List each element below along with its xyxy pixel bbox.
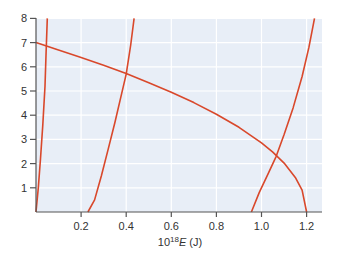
y-tick-label: 4 — [21, 109, 27, 121]
y-tick-label: 3 — [21, 133, 27, 145]
x-tick-label: 0.2 — [73, 220, 88, 232]
chart: 0.20.40.60.81.01.2 12345678 1018E (J) — [0, 0, 341, 258]
x-tick-label: 1.2 — [299, 220, 314, 232]
y-tick-label: 6 — [21, 61, 27, 73]
x-axis-ticks: 0.20.40.60.81.01.2 — [73, 212, 314, 232]
y-tick-label: 2 — [21, 158, 27, 170]
y-tick-label: 5 — [21, 85, 27, 97]
x-tick-label: 0.8 — [209, 220, 224, 232]
y-tick-label: 7 — [21, 37, 27, 49]
y-tick-label: 1 — [21, 182, 27, 194]
x-axis-title: 1018E (J) — [158, 235, 202, 248]
x-tick-label: 1.0 — [254, 220, 269, 232]
y-tick-label: 8 — [21, 12, 27, 24]
y-axis-ticks: 12345678 — [21, 12, 36, 193]
x-tick-label: 0.6 — [164, 220, 179, 232]
x-tick-label: 0.4 — [119, 220, 134, 232]
